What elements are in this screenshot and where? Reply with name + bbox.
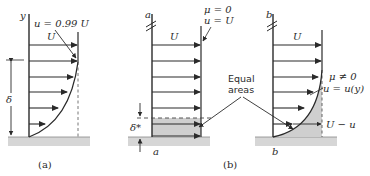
freestream-label: U [293,31,302,42]
displacement-shaded-area [152,118,201,137]
panel-b-inviscid: a U μ = 0 u = U δ* a [128,4,234,157]
displacement-thickness-label: δ* [130,122,141,133]
equal-areas-label-line2: areas [228,84,254,95]
leader-line [55,30,76,58]
velocity-profile-curve [29,62,78,137]
viscosity-label: μ ≠ 0 [329,71,357,82]
section-label-b-top: b [266,9,272,20]
velocity-label: u = u(y) [323,83,364,94]
viscosity-label: μ = 0 [204,4,232,15]
velocity-label: u = U [204,15,234,26]
section-label-b-bottom: b [272,146,278,157]
boundary-layer-diagram: y u = 0.99 U U δ (a) a [0,0,370,176]
wall [8,137,90,146]
y-axis-label: y [19,10,26,21]
equal-areas-annotation: Equal areas [199,73,293,129]
wall [255,137,337,146]
freestream-label: U [47,31,56,42]
equal-areas-label-line1: Equal [228,73,255,84]
deficit-label: U − u [326,119,356,130]
panel-a: y u = 0.99 U U δ (a) [5,10,90,170]
section-label-a-top: a [145,9,151,20]
equal-areas-pointer-left [199,97,241,127]
caption-b: (b) [223,159,237,170]
section-label-a-bottom: a [153,146,159,157]
caption-a: (a) [38,159,52,170]
freestream-label: U [170,31,179,42]
edge-velocity-label: u = 0.99 U [34,18,90,29]
panel-b-viscous: b U μ ≠ 0 u = u(y) U − u b [255,9,364,157]
thickness-label: δ [6,94,12,105]
velocity-arrows [29,45,77,124]
